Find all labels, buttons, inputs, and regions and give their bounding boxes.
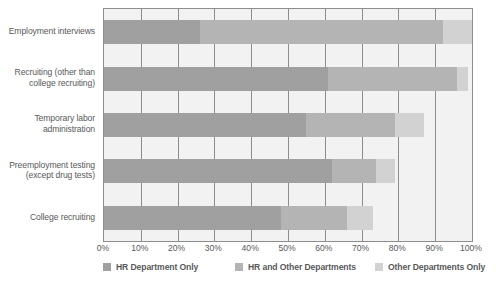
legend-item[interactable]: HR Department Only	[103, 262, 198, 272]
x-tick-label: 40%	[242, 243, 259, 253]
category-label: College recruiting	[0, 212, 95, 223]
x-tick-label: 100%	[460, 243, 482, 253]
category-label: Preemployment testing(except drug tests)	[0, 160, 95, 181]
bar-segment	[104, 113, 306, 137]
category-label: Temporary laboradministration	[0, 113, 95, 134]
bar-segment	[104, 206, 281, 230]
x-tick-label: 0%	[97, 243, 109, 253]
bar-segment	[200, 20, 443, 44]
bar-row	[104, 159, 472, 183]
bar-segment	[328, 67, 457, 91]
legend-item[interactable]: HR and Other Departments	[235, 262, 356, 272]
bar-segment	[395, 113, 424, 137]
bar-segment	[376, 159, 394, 183]
chart-legend: HR Department OnlyHR and Other Departmen…	[103, 262, 483, 278]
x-tick-label: 80%	[389, 243, 406, 253]
bar-segment	[104, 20, 200, 44]
x-axis-tick-labels: 0%10%20%30%40%50%60%70%80%90%100%	[103, 243, 471, 257]
bar-segment	[306, 113, 394, 137]
bar-segment	[104, 159, 332, 183]
x-tick-label: 70%	[352, 243, 369, 253]
stacked-bar-chart: Employment interviewsRecruiting (other t…	[0, 0, 496, 286]
bar-segment	[443, 20, 472, 44]
category-label: Recruiting (other thancollege recruiting…	[0, 67, 95, 88]
bar-segment	[104, 67, 328, 91]
legend-swatch-icon	[103, 263, 111, 271]
legend-label: HR Department Only	[116, 262, 198, 272]
bar-row	[104, 20, 472, 44]
plot-area	[103, 8, 473, 242]
category-axis-labels: Employment interviewsRecruiting (other t…	[0, 8, 99, 240]
x-tick-label: 90%	[426, 243, 443, 253]
x-tick-label: 60%	[315, 243, 332, 253]
legend-label: HR and Other Departments	[248, 262, 356, 272]
bar-row	[104, 67, 472, 91]
x-tick-label: 30%	[205, 243, 222, 253]
bar-segment	[457, 67, 468, 91]
x-tick-label: 10%	[131, 243, 148, 253]
bar-row	[104, 113, 472, 137]
plot-inner	[104, 9, 472, 241]
legend-swatch-icon	[235, 263, 243, 271]
x-tick-label: 50%	[278, 243, 295, 253]
legend-swatch-icon	[375, 263, 383, 271]
legend-label: Other Departments Only	[388, 262, 485, 272]
bar-segment	[347, 206, 373, 230]
bar-segment	[281, 206, 347, 230]
x-tick-label: 20%	[168, 243, 185, 253]
legend-item[interactable]: Other Departments Only	[375, 262, 485, 272]
bar-row	[104, 206, 472, 230]
category-label: Employment interviews	[0, 26, 95, 37]
bar-segment	[332, 159, 376, 183]
